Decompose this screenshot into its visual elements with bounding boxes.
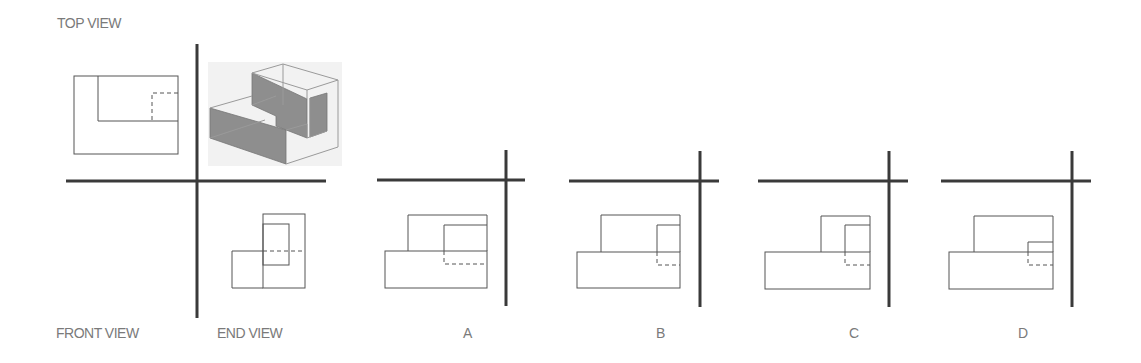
isometric-pictorial — [208, 62, 342, 166]
option-d-drawing[interactable] — [941, 151, 1091, 307]
option-c-drawing[interactable] — [758, 151, 908, 307]
top-view-drawing — [74, 76, 178, 154]
option-b-drawing[interactable] — [569, 151, 719, 307]
end-view-drawing — [232, 214, 305, 288]
option-a-drawing[interactable] — [377, 150, 525, 306]
drawing-canvas — [0, 0, 1141, 363]
